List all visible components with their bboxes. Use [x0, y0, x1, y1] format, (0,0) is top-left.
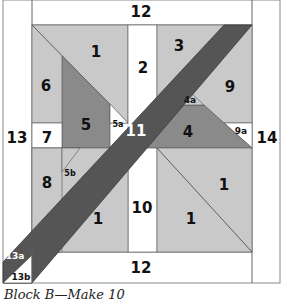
label-5b: 5b	[64, 169, 76, 178]
label-12-top: 12	[131, 3, 152, 21]
label-13b: 13b	[12, 272, 32, 282]
label-2: 2	[138, 59, 148, 77]
label-9: 9	[225, 78, 235, 96]
label-5a: 5a	[113, 120, 124, 129]
label-14: 14	[257, 129, 278, 147]
quilt-block-diagram: 12 1 2 3 6 9 4a 5 5a 11 4 9a 13 14 7 8 5…	[0, 0, 283, 302]
label-11: 11	[126, 122, 147, 140]
label-8: 8	[42, 174, 52, 192]
label-4a: 4a	[184, 95, 196, 105]
label-4: 4	[183, 123, 193, 141]
label-10: 10	[132, 199, 153, 217]
label-13: 13	[7, 129, 28, 147]
label-13a: 13a	[6, 251, 25, 261]
diagram-caption: Block B—Make 10	[4, 287, 125, 302]
label-12-bottom: 12	[131, 259, 152, 277]
label-7: 7	[42, 129, 52, 147]
label-9a: 9a	[235, 126, 247, 136]
label-1-right: 1	[219, 176, 229, 194]
label-1-bottom-right: 1	[186, 210, 196, 228]
label-3: 3	[174, 37, 184, 55]
label-5: 5	[81, 116, 91, 134]
label-1-bottom-left: 1	[93, 210, 103, 228]
label-1-top: 1	[91, 43, 101, 61]
label-6: 6	[41, 77, 51, 95]
